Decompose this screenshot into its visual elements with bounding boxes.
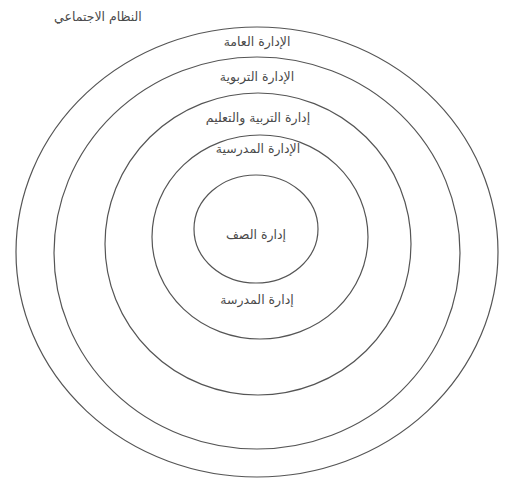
- label-social-system: النظام الاجتماعي: [54, 11, 142, 24]
- label-classroom-management: إدارة الصف: [226, 229, 286, 242]
- label-educational-administration: الإدارة التربوية: [220, 71, 294, 84]
- ring-general-administration: [16, 27, 498, 477]
- concentric-management-diagram: النظام الاجتماعي الإدارة العامة الإدارة …: [0, 0, 510, 496]
- label-school-administration: الإدارة المدرسية: [216, 143, 300, 156]
- label-general-administration: الإدارة العامة: [224, 36, 291, 49]
- ring-education-directorate: [105, 93, 411, 395]
- label-school-management: إدارة المدرسة: [220, 294, 293, 307]
- label-education-directorate: إدارة التربية والتعليم: [206, 112, 310, 125]
